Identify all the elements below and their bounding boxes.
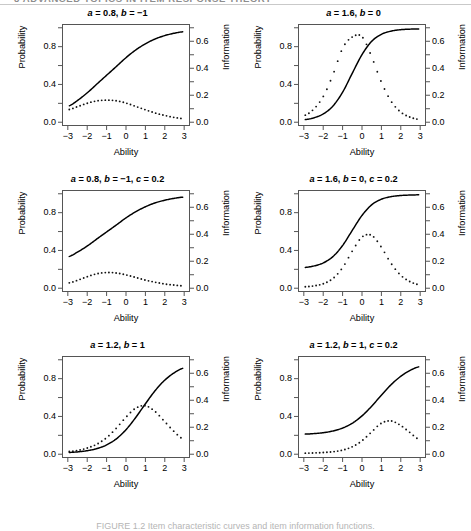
plot-area	[62, 24, 190, 126]
characteristic-curve	[305, 367, 418, 434]
y-axis-label-right: Information	[221, 165, 231, 261]
x-tick-label: −1	[335, 464, 351, 473]
y-axis-label-left: Probability	[253, 0, 263, 95]
figure-caption: FIGURE 1.2 Item characteristic curves an…	[0, 520, 471, 531]
y-tick-label-left: 0.4	[22, 246, 56, 255]
y-tick-label-right: 0.0	[432, 284, 462, 293]
header-rule	[0, 4, 471, 5]
characteristic-curve	[69, 368, 182, 452]
y-tick-label-left: 0.4	[258, 412, 292, 421]
x-tick-label: −1	[335, 298, 351, 307]
y-tick-label-left: 0.0	[22, 284, 56, 293]
chart-panel-6: a = 1.2, b = 1, c = 0.20.00.40.80.00.20.…	[236, 340, 471, 508]
x-tick-label: 1	[373, 464, 389, 473]
page-running-head: 8 ADVANCED TOPICS IN ITEM RESPONSE THEOR…	[0, 0, 471, 6]
x-tick-label: 2	[393, 464, 409, 473]
figure-caption-text: FIGURE 1.2 Item characteristic curves an…	[0, 521, 471, 531]
y-tick-label-left: 0.0	[22, 118, 56, 127]
x-tick-label: −3	[296, 132, 312, 141]
figure-panel-grid: a = 0.8, b = −10.00.40.80.00.20.40.6−3−2…	[0, 8, 471, 513]
panel-title: a = 0.8, b = −1	[0, 8, 235, 18]
panel-title: a = 1.6, b = 0, c = 0.2	[236, 174, 471, 184]
y-axis-label-right: Information	[457, 165, 467, 261]
y-axis-label-right: Information	[221, 331, 231, 427]
plot-area	[62, 190, 190, 292]
chart-panel-2: a = 1.6, b = 00.00.40.80.00.20.40.6−3−2−…	[236, 8, 471, 176]
y-tick-label-right: 0.0	[196, 450, 226, 459]
y-tick-label-left: 0.8	[22, 208, 56, 217]
y-tick-label-left: 0.0	[258, 450, 292, 459]
information-curve	[304, 420, 417, 454]
information-curve	[304, 34, 417, 120]
y-axis-label-right: Information	[457, 331, 467, 427]
x-tick-label: 3	[176, 132, 192, 141]
x-tick-label: 0	[118, 464, 134, 473]
x-tick-label: −1	[99, 464, 115, 473]
y-tick-label-right: 0.0	[432, 450, 462, 459]
plot-area	[298, 24, 426, 126]
information-curve	[304, 234, 417, 288]
x-tick-label: 0	[118, 298, 134, 307]
y-axis-label-left: Probability	[17, 165, 27, 261]
x-tick-label: 3	[412, 132, 428, 141]
characteristic-curve	[69, 32, 182, 106]
panel-title: a = 0.8, b = −1, c = 0.2	[0, 174, 235, 184]
y-axis-label-left: Probability	[253, 165, 263, 261]
x-tick-label: 0	[118, 132, 134, 141]
y-tick-label-left: 0.4	[22, 80, 56, 89]
x-tick-label: −2	[315, 298, 331, 307]
x-tick-label: 0	[354, 132, 370, 141]
x-axis-label: Ability	[298, 479, 426, 489]
x-tick-label: −2	[315, 464, 331, 473]
x-tick-label: 2	[157, 298, 173, 307]
information-curve	[68, 405, 181, 453]
x-tick-label: −2	[315, 132, 331, 141]
characteristic-curve	[305, 195, 418, 268]
x-axis-label: Ability	[62, 147, 190, 157]
x-tick-label: 2	[393, 298, 409, 307]
x-axis-label: Ability	[62, 313, 190, 323]
x-tick-label: 2	[157, 132, 173, 141]
information-curve	[68, 99, 181, 119]
x-tick-label: 1	[373, 298, 389, 307]
x-tick-label: 3	[176, 298, 192, 307]
y-tick-label-left: 0.0	[258, 284, 292, 293]
y-tick-label-right: 0.0	[432, 118, 462, 127]
plot-area	[298, 356, 426, 458]
x-tick-label: 0	[354, 464, 370, 473]
panel-title: a = 1.6, b = 0	[236, 8, 471, 18]
x-tick-label: 0	[354, 298, 370, 307]
x-tick-label: 1	[137, 464, 153, 473]
chart-panel-5: a = 1.2, b = 10.00.40.80.00.20.40.6−3−2−…	[0, 340, 235, 508]
y-tick-label-left: 0.0	[22, 450, 56, 459]
x-tick-label: 2	[157, 464, 173, 473]
y-tick-label-left: 0.8	[22, 42, 56, 51]
y-tick-label-left: 0.8	[258, 42, 292, 51]
y-tick-label-left: 0.0	[258, 118, 292, 127]
x-tick-label: 3	[176, 464, 192, 473]
x-axis-label: Ability	[298, 313, 426, 323]
y-tick-label-right: 0.0	[196, 118, 226, 127]
y-axis-label-left: Probability	[17, 0, 27, 95]
information-curve	[68, 272, 181, 287]
y-axis-label-left: Probability	[17, 331, 27, 427]
x-tick-label: −2	[79, 298, 95, 307]
x-tick-label: 2	[393, 132, 409, 141]
x-tick-label: −3	[60, 298, 76, 307]
y-tick-label-right: 0.0	[196, 284, 226, 293]
x-tick-label: −3	[60, 132, 76, 141]
plot-area	[298, 190, 426, 292]
chart-panel-4: a = 1.6, b = 0, c = 0.20.00.40.80.00.20.…	[236, 174, 471, 342]
x-tick-label: −2	[79, 132, 95, 141]
y-axis-label-right: Information	[457, 0, 467, 95]
y-tick-label-left: 0.8	[258, 374, 292, 383]
x-tick-label: 3	[412, 464, 428, 473]
y-tick-label-left: 0.4	[258, 246, 292, 255]
chart-panel-1: a = 0.8, b = −10.00.40.80.00.20.40.6−3−2…	[0, 8, 235, 176]
y-tick-label-left: 0.8	[22, 374, 56, 383]
panel-title: a = 1.2, b = 1	[0, 340, 235, 350]
x-tick-label: −2	[79, 464, 95, 473]
x-tick-label: −1	[99, 298, 115, 307]
x-axis-label: Ability	[298, 147, 426, 157]
x-tick-label: −1	[99, 132, 115, 141]
